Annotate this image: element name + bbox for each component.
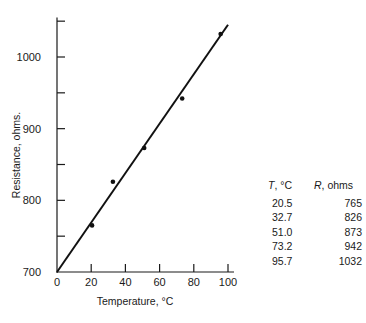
x-axis-label: Temperature, °C — [97, 295, 174, 307]
table-row: 20.5765 — [268, 196, 364, 211]
cell-t: 32.7 — [268, 210, 312, 225]
x-tick-label: 80 — [188, 276, 200, 288]
cell-t: 73.2 — [268, 239, 312, 254]
table-row: 73.2942 — [268, 239, 364, 254]
x-tick-label: 40 — [119, 276, 131, 288]
x-tick-label: 20 — [85, 276, 97, 288]
data-point — [142, 146, 147, 151]
header-resistance: R, ohms — [308, 178, 364, 193]
cell-r: 765 — [312, 196, 362, 211]
x-tick-label: 60 — [153, 276, 165, 288]
y-axis-label: Resistance, ohms. — [10, 112, 22, 198]
y-tick-label: 1000 — [17, 51, 41, 63]
data-point — [180, 96, 185, 101]
y-tick-label: 700 — [23, 266, 41, 278]
cell-r: 873 — [312, 225, 362, 240]
data-point — [111, 179, 116, 184]
header-temperature: T, °C — [268, 178, 308, 193]
table-row: 95.71032 — [268, 254, 364, 269]
table-row: 32.7826 — [268, 210, 364, 225]
table-header: T, °C R, ohms — [268, 178, 364, 193]
data-table: T, °C R, ohms 20.5765 32.7826 51.0873 73… — [268, 178, 364, 268]
cell-r: 942 — [312, 239, 362, 254]
chart: 7008009001000020406080100 Temperature, °… — [0, 0, 366, 323]
y-tick-label: 800 — [23, 194, 41, 206]
y-tick-label: 900 — [23, 123, 41, 135]
cell-t: 20.5 — [268, 196, 312, 211]
cell-r: 1032 — [312, 254, 362, 269]
x-tick-label: 100 — [219, 276, 237, 288]
cell-r: 826 — [312, 210, 362, 225]
cell-t: 51.0 — [268, 225, 312, 240]
data-point — [218, 32, 223, 37]
data-point — [90, 223, 95, 228]
table-row: 51.0873 — [268, 225, 364, 240]
x-tick-label: 0 — [54, 276, 60, 288]
cell-t: 95.7 — [268, 254, 312, 269]
